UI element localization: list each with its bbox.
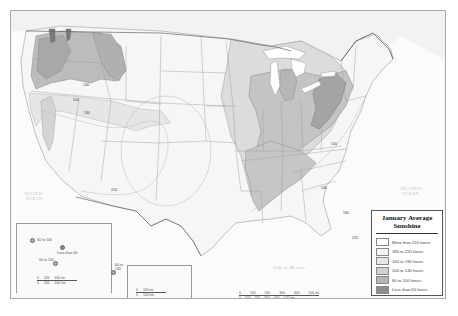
alaska-inset: 60 to 100 Less than 60 60 to 100 0200400…	[16, 223, 112, 293]
alaska-label: 60 to 100	[37, 238, 52, 242]
alaska-dot-less-60	[60, 245, 65, 250]
legend-swatch	[376, 267, 389, 275]
hawaii-inset: 0100 mi 0100 km	[127, 265, 192, 299]
pacific-label-line2: OCEAN	[25, 196, 43, 201]
gulf-of-mexico-label: Gulf of Mexico	[273, 265, 305, 270]
legend-item: 100 to 140 hours	[376, 267, 438, 276]
alaska-dot-60-100	[30, 238, 35, 243]
legend-item: 180 to 220 hours	[376, 248, 438, 257]
legend: January Average Sunshine More than 220 h…	[371, 210, 443, 296]
isoline-label: 220	[111, 188, 117, 192]
legend-label: Less than 60 hours	[392, 287, 428, 292]
legend-swatch	[376, 238, 389, 246]
legend-swatch	[376, 248, 389, 256]
legend-title: January Average Sunshine	[376, 214, 438, 230]
legend-item: 60 to 100 hours	[376, 276, 438, 285]
legend-item: Less than 60 hours	[376, 286, 438, 295]
legend-label: 180 to 220 hours	[392, 249, 423, 254]
alaska-panhandle-label: 60 to 100	[115, 263, 127, 271]
isoline-label: 100	[73, 98, 79, 102]
legend-label: 60 to 100 hours	[392, 278, 421, 283]
legend-item: More than 220 hours	[376, 238, 438, 247]
legend-title-line2: Sunshine	[376, 222, 438, 230]
legend-label: 100 to 140 hours	[392, 268, 423, 273]
alaska-scale: 0200400 mi 0200400 km	[37, 276, 77, 285]
legend-divider	[376, 233, 438, 234]
legend-swatch	[376, 276, 389, 284]
isoline-label: 180	[84, 111, 90, 115]
legend-label: More than 220 hours	[392, 240, 431, 245]
alaska-label: 60 to 100	[39, 258, 54, 262]
isoline-label: 220	[352, 236, 358, 240]
hawaii-scale: 0100 mi 0100 km	[136, 288, 166, 297]
legend-title-line1: January Average	[376, 214, 438, 222]
legend-swatch	[376, 257, 389, 265]
atlantic-ocean-label: ATLANTIC OCEAN	[399, 186, 423, 196]
alaska-label: Less than 60	[57, 251, 78, 255]
isoline-label: 180	[343, 211, 349, 215]
isoline-label: 140	[321, 186, 327, 190]
legend-swatch	[376, 286, 389, 294]
legend-item: 140 to 180 hours	[376, 257, 438, 266]
isoline-label: 100	[331, 142, 337, 146]
isoline-label: 140	[83, 83, 89, 87]
legend-label: 140 to 180 hours	[392, 259, 423, 264]
main-scale: 0100200300400500 mi 0100200300400500 km	[239, 291, 319, 299]
pacific-ocean-label: PACIFIC OCEAN	[25, 191, 43, 201]
atlantic-label-line2: OCEAN	[399, 191, 423, 196]
